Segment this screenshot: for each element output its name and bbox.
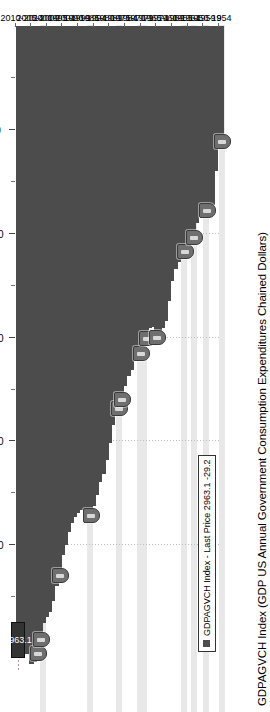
category-group-separator bbox=[61, 23, 62, 27]
recession-pin-2001[interactable] bbox=[52, 568, 69, 583]
recession-pin-1949[interactable] bbox=[214, 134, 231, 149]
chart-legend: GDPAGVCH Index - Last Price 2963.1 -29.2 bbox=[198, 455, 216, 652]
tick-2000 bbox=[9, 440, 15, 441]
recession-pin-1958[interactable] bbox=[186, 230, 203, 245]
category-group-separator bbox=[93, 23, 94, 27]
tick-minor-2750 bbox=[11, 596, 15, 597]
category-group-separator bbox=[187, 23, 188, 27]
last-price-flag-label: 2963.1 bbox=[4, 635, 32, 645]
category-group-label: 1950-1954 bbox=[189, 13, 232, 23]
legend-swatch bbox=[203, 640, 210, 647]
tick-minor-1250 bbox=[11, 285, 15, 286]
category-group-separator bbox=[30, 23, 31, 27]
category-group-separator bbox=[202, 23, 203, 27]
recession-pin-1991[interactable] bbox=[83, 508, 100, 523]
tick-1000 bbox=[9, 233, 15, 234]
category-group-separator bbox=[46, 23, 47, 27]
tick-2500 bbox=[9, 544, 15, 545]
recession-pin-1954[interactable] bbox=[199, 203, 216, 218]
legend-entry-label: GDPAGVCH Index - Last Price 2963.1 -29.2 bbox=[202, 460, 212, 636]
recession-pin-1970[interactable] bbox=[149, 330, 166, 345]
recession-pin-1975[interactable] bbox=[133, 346, 150, 361]
category-group-separator bbox=[171, 23, 172, 27]
tick-minor-1750 bbox=[11, 389, 15, 390]
category-group-separator bbox=[218, 23, 219, 27]
recession-pin-2008[interactable] bbox=[30, 646, 47, 661]
category-group-separator bbox=[124, 23, 125, 27]
recession-pin-2007[interactable] bbox=[33, 632, 50, 647]
recession-pin-1981[interactable] bbox=[114, 392, 131, 407]
category-group-separator bbox=[77, 23, 78, 27]
tick-minor-250 bbox=[11, 77, 15, 78]
tick-500 bbox=[9, 129, 15, 130]
category-group-separator bbox=[108, 23, 109, 27]
tick-1500 bbox=[9, 337, 15, 338]
category-group-label: 9 bbox=[217, 13, 222, 23]
chart-title: GDPAGVCH Index (GDP US Annual Government… bbox=[256, 232, 268, 706]
tick-minor-750 bbox=[11, 181, 15, 182]
recession-pin-1961[interactable] bbox=[177, 244, 194, 259]
category-group-separator bbox=[15, 23, 16, 27]
category-group-separator bbox=[155, 23, 156, 27]
chart-figure: GDPAGVCH Index (GDP US Annual Government… bbox=[0, 0, 270, 712]
last-price-flag: 2963.1 bbox=[11, 622, 25, 658]
category-group-separator bbox=[140, 23, 141, 27]
bar-1949 bbox=[219, 26, 224, 135]
tick-minor-2250 bbox=[11, 492, 15, 493]
